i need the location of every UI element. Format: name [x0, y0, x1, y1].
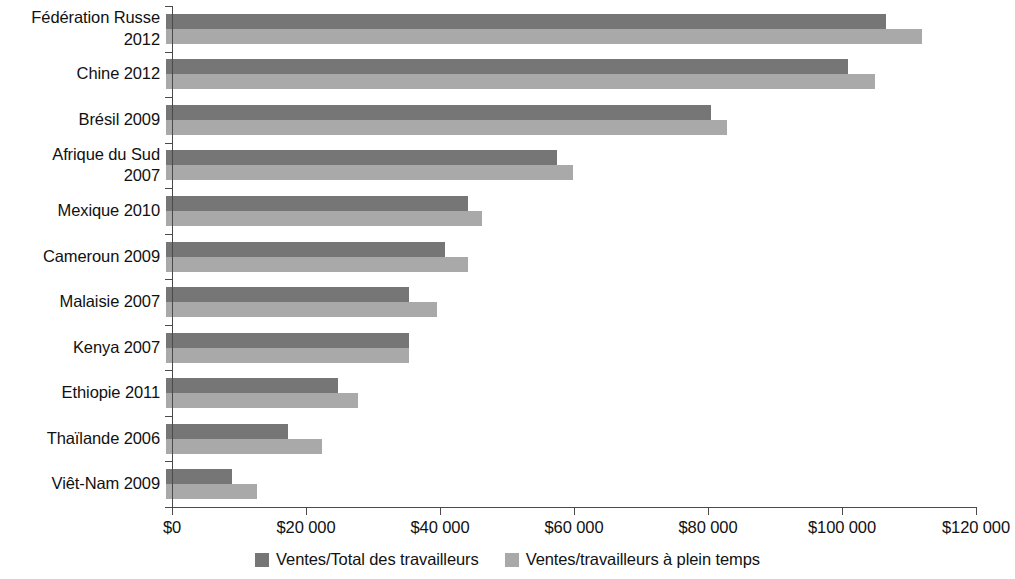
bar-series-1 [166, 348, 409, 363]
x-axis-tick [976, 507, 977, 515]
category-label: Kenya 2007 [0, 337, 166, 359]
bar-series-0 [166, 424, 288, 439]
x-axis-tick [440, 507, 441, 515]
bar-group [166, 234, 1015, 280]
bar-series-1 [166, 211, 482, 226]
chart-category-row: Viêt-Nam 2009 [0, 461, 1015, 507]
bar-series-0 [166, 469, 232, 484]
plot-area: Fédération Russe 2012Chine 2012Brésil 20… [0, 0, 1015, 545]
bar-series-0 [166, 196, 468, 211]
bar-series-0 [166, 14, 886, 29]
legend-item[interactable]: Ventes/travailleurs à plein temps [505, 550, 760, 569]
bar-series-1 [166, 484, 257, 499]
bar-series-1 [166, 74, 875, 89]
y-axis-tick [165, 234, 173, 235]
chart-category-row: Mexique 2010 [0, 188, 1015, 234]
bar-group [166, 143, 1015, 189]
chart-category-row: Malaisie 2007 [0, 279, 1015, 325]
category-label: Fédération Russe 2012 [0, 7, 166, 51]
category-label: Thaïlande 2006 [0, 428, 166, 450]
category-label: Viêt-Nam 2009 [0, 473, 166, 495]
legend-item[interactable]: Ventes/Total des travailleurs [255, 550, 479, 569]
legend-label: Ventes/Total des travailleurs [276, 550, 479, 569]
bar-group [166, 6, 1015, 52]
bar-series-1 [166, 393, 358, 408]
y-axis-tick [165, 52, 173, 53]
bar-series-0 [166, 378, 338, 393]
y-axis-tick [165, 6, 173, 7]
category-label: Ethiopie 2011 [0, 382, 166, 404]
bar-series-0 [166, 150, 557, 165]
light-gray-swatch-icon [505, 553, 519, 567]
bar-series-1 [166, 302, 437, 317]
y-axis-line [172, 6, 173, 507]
category-label: Chine 2012 [0, 63, 166, 85]
x-axis-tick-label: $40 000 [411, 518, 470, 537]
y-axis-tick [165, 325, 173, 326]
bar-series-0 [166, 59, 848, 74]
bar-group [166, 325, 1015, 371]
chart-category-row: Kenya 2007 [0, 325, 1015, 371]
bar-series-0 [166, 333, 409, 348]
category-label: Cameroun 2009 [0, 246, 166, 268]
x-axis-tick [574, 507, 575, 515]
x-axis-tick-label: $100 000 [808, 518, 876, 537]
category-rows: Fédération Russe 2012Chine 2012Brésil 20… [0, 6, 1015, 507]
bar-chart-figure: Fédération Russe 2012Chine 2012Brésil 20… [0, 0, 1015, 579]
bar-series-1 [166, 439, 322, 454]
bar-series-1 [166, 257, 468, 272]
bar-group [166, 279, 1015, 325]
bar-series-0 [166, 287, 409, 302]
bar-series-1 [166, 120, 727, 135]
category-label: Brésil 2009 [0, 109, 166, 131]
bar-series-0 [166, 242, 445, 257]
chart-category-row: Brésil 2009 [0, 97, 1015, 143]
chart-category-row: Afrique du Sud 2007 [0, 143, 1015, 189]
bar-series-0 [166, 105, 711, 120]
x-axis-tick-label: $60 000 [545, 518, 604, 537]
legend-label: Ventes/travailleurs à plein temps [526, 550, 760, 569]
bar-group [166, 188, 1015, 234]
chart-category-row: Chine 2012 [0, 52, 1015, 98]
y-axis-tick [165, 279, 173, 280]
y-axis-tick [165, 370, 173, 371]
bar-group [166, 52, 1015, 98]
x-axis-tick [708, 507, 709, 515]
y-axis-tick [165, 97, 173, 98]
x-axis-tick-label: $0 [163, 518, 181, 537]
chart-category-row: Ethiopie 2011 [0, 370, 1015, 416]
x-axis-tick [172, 507, 173, 515]
x-axis-tick-label: $20 000 [277, 518, 336, 537]
category-label: Mexique 2010 [0, 200, 166, 222]
bar-group [166, 370, 1015, 416]
bar-group [166, 416, 1015, 462]
y-axis-tick [165, 143, 173, 144]
chart-category-row: Fédération Russe 2012 [0, 6, 1015, 52]
chart-legend: Ventes/Total des travailleursVentes/trav… [0, 550, 1015, 569]
chart-category-row: Thaïlande 2006 [0, 416, 1015, 462]
bar-group [166, 461, 1015, 507]
dark-gray-swatch-icon [255, 553, 269, 567]
bar-series-1 [166, 165, 573, 180]
category-label: Malaisie 2007 [0, 291, 166, 313]
category-label: Afrique du Sud 2007 [0, 144, 166, 188]
bar-series-1 [166, 29, 922, 44]
x-axis-tick [306, 507, 307, 515]
y-axis-tick [165, 188, 173, 189]
x-axis-tick-label: $80 000 [679, 518, 738, 537]
bar-group [166, 97, 1015, 143]
y-axis-tick [165, 416, 173, 417]
y-axis-tick [165, 461, 173, 462]
chart-category-row: Cameroun 2009 [0, 234, 1015, 280]
x-axis-tick-label: $120 000 [942, 518, 1010, 537]
x-axis-tick [842, 507, 843, 515]
